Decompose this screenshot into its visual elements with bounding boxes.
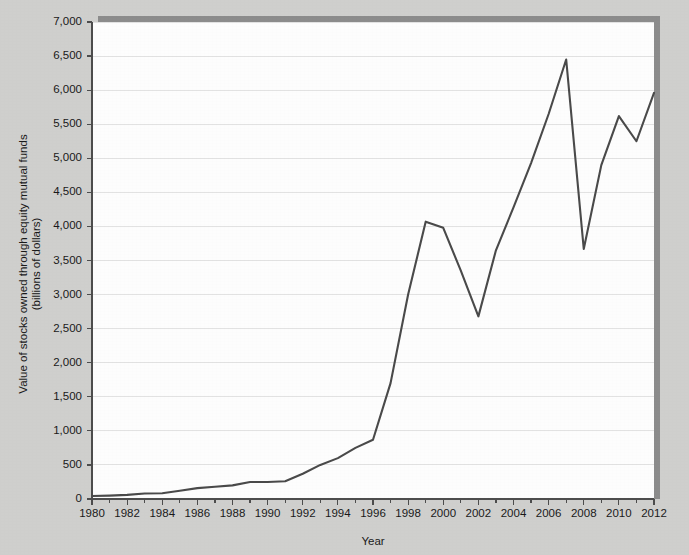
line-chart: 05001,0001,5002,0002,5003,0003,5004,0004… xyxy=(0,0,689,555)
chart-figure: 05001,0001,5002,0002,5003,0003,5004,0004… xyxy=(0,0,689,555)
y-axis-tick-label: 3,500 xyxy=(53,254,82,266)
x-axis-tick-label: 1982 xyxy=(114,507,140,519)
x-axis-tick-label: 2008 xyxy=(571,507,597,519)
x-axis-tick-label: 1990 xyxy=(255,507,281,519)
y-axis-tick-label: 1,500 xyxy=(53,390,82,402)
y-axis-tick-label: 6,500 xyxy=(53,49,82,61)
x-axis-tick-labels: 1980198219841986198819901992199419961998… xyxy=(79,507,667,519)
x-axis-tick-label: 2004 xyxy=(501,507,527,519)
y-axis-tick-label: 3,000 xyxy=(53,288,82,300)
y-axis-title-line2: (billions of dollars) xyxy=(30,217,42,310)
x-axis-tick-label: 1992 xyxy=(290,507,316,519)
y-axis-tick-label: 5,500 xyxy=(53,117,82,129)
x-axis-tick-label: 2002 xyxy=(466,507,492,519)
y-axis-tick-label: 500 xyxy=(63,458,82,470)
y-axis-tick-label: 6,000 xyxy=(53,83,82,95)
y-axis-title-line1: Value of stocks owned through equity mut… xyxy=(17,134,29,394)
x-axis-tick-label: 2006 xyxy=(536,507,562,519)
x-axis-tick-label: 1980 xyxy=(79,507,105,519)
y-axis-tick-label: 4,500 xyxy=(53,185,82,197)
y-axis-tick-label: 2,000 xyxy=(53,356,82,368)
y-axis-tick-label: 4,000 xyxy=(53,219,82,231)
y-axis-tick-label: 1,000 xyxy=(53,424,82,436)
x-axis-tick-label: 1984 xyxy=(149,507,175,519)
x-axis-tick-label: 1988 xyxy=(220,507,246,519)
y-axis-tick-label: 7,000 xyxy=(53,15,82,27)
x-axis-tick-label: 2010 xyxy=(606,507,632,519)
y-axis-tick-label: 2,500 xyxy=(53,322,82,334)
y-axis-tick-label: 0 xyxy=(76,492,82,504)
x-axis-tick-label: 1986 xyxy=(185,507,211,519)
x-axis-tick-label: 1994 xyxy=(325,507,351,519)
x-axis-tick-label: 1996 xyxy=(360,507,386,519)
x-axis-tick-label: 2012 xyxy=(641,507,667,519)
y-axis-tick-labels: 05001,0001,5002,0002,5003,0003,5004,0004… xyxy=(53,15,82,504)
x-axis-tick-label: 2000 xyxy=(430,507,456,519)
x-axis-title: Year xyxy=(361,535,384,547)
y-axis-tick-label: 5,000 xyxy=(53,151,82,163)
x-axis-tick-label: 1998 xyxy=(395,507,421,519)
